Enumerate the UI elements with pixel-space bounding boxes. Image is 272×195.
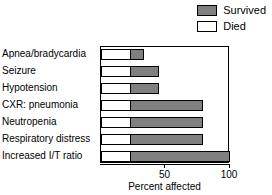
legend-label-survived: Survived [223,5,266,16]
bar-segment-died [101,134,131,145]
bar-row [101,151,228,162]
bar-row [101,66,228,77]
bar-chart-figure: Survived Died Apnea/bradycardia Seizure … [0,0,272,195]
plot-area [100,46,229,163]
x-axis-tick-label-100: 100 [221,169,238,180]
legend-item-died: Died [197,20,246,33]
category-label-respiratory-distress: Respiratory distress [0,133,94,144]
legend-swatch-survived-icon [197,5,217,16]
bar-segment-died [101,100,131,111]
bar-row [101,134,228,145]
legend-label-died: Died [223,21,246,32]
bar-segment-died [101,66,131,77]
bar-row [101,49,228,60]
category-label-cxr-pneumonia: CXR: pneumonia [0,99,94,110]
category-label-seizure: Seizure [0,65,94,76]
legend-item-survived: Survived [197,4,266,17]
bar-segment-died [101,49,131,60]
category-label-apnea-bradycardia: Apnea/bradycardia [0,48,94,59]
x-axis-title: Percent affected [100,181,229,192]
bar-row [101,83,228,94]
x-axis-tick-50 [164,164,165,168]
bar-segment-died [101,151,131,162]
bar-row [101,100,228,111]
bar-series-container [101,47,228,162]
category-label-hypotension: Hypotension [0,82,94,93]
x-axis-tick-100 [229,164,230,168]
category-label-increased-it-ratio: Increased I/T ratio [0,150,94,161]
bar-segment-died [101,117,131,128]
x-axis-tick-label-50: 50 [159,169,170,180]
legend-swatch-died-icon [197,21,217,32]
category-axis-labels: Apnea/bradycardia Seizure Hypotension CX… [0,46,97,163]
bar-row [101,117,228,128]
bar-segment-died [101,83,131,94]
chart-legend: Survived Died [197,4,266,33]
category-label-neutropenia: Neutropenia [0,116,94,127]
